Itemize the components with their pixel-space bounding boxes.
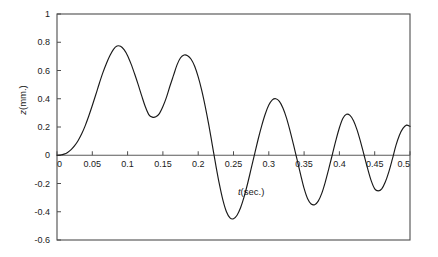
figure-container: 00.050.10.150.20.250.30.350.40.450.5 10.… <box>0 0 438 257</box>
x-tick-label: 0.25 <box>225 159 243 169</box>
y-tick-label: 0.6 <box>37 66 50 76</box>
y-tick-label: -0.4 <box>34 207 50 217</box>
y-tick-label: -0.2 <box>34 179 50 189</box>
y-axis-title: z(mm.) <box>17 85 28 116</box>
x-tick-label: 0.15 <box>154 159 172 169</box>
y-tick-label: 0.4 <box>37 94 50 104</box>
x-tick-label: 0.05 <box>84 159 102 169</box>
x-tick-label: 0.45 <box>366 159 384 169</box>
line-chart: 00.050.10.150.20.250.30.350.40.450.5 10.… <box>0 0 438 257</box>
plot-border <box>57 14 410 240</box>
x-axis-title: t(sec.) <box>238 186 264 197</box>
y-tick-label: -0.6 <box>34 235 50 245</box>
y-tick-label: 0 <box>45 150 50 160</box>
x-tick-label: 0.1 <box>121 159 134 169</box>
x-tick-label: 0.5 <box>397 159 410 169</box>
x-tick-label: 0 <box>57 159 62 169</box>
y-tick-label: 0.8 <box>37 37 50 47</box>
y-axis-tick-labels: 10.80.60.40.20-0.2-0.4-0.6 <box>34 9 50 245</box>
x-tick-label: 0.3 <box>263 159 276 169</box>
x-tick-label: 0.2 <box>192 159 205 169</box>
y-tick-label: 0.2 <box>37 122 50 132</box>
y-tick-label: 1 <box>45 9 50 19</box>
x-tick-label: 0.4 <box>333 159 346 169</box>
plot-frame <box>57 14 410 240</box>
